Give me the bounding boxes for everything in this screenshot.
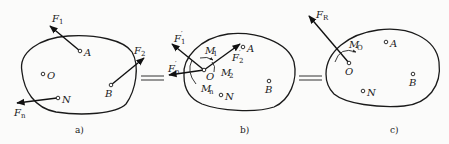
point-n-label: N [61,94,72,105]
point-o [41,72,45,76]
point-b [109,83,113,87]
svg-text:′: ′ [175,60,177,68]
point-n [361,89,365,93]
caption-b: b) [240,125,249,135]
force-resultant-arrow [309,16,349,63]
svg-text:′: ′ [239,49,241,57]
point-a [241,45,245,49]
point-a [78,49,82,53]
point-b-label: B [408,77,416,88]
svg-text:2: 2 [229,72,233,80]
point-n-label: N [224,91,235,102]
moment-m1-arc [200,57,213,60]
caption-a: a) [75,125,84,135]
point-b-label: B [104,88,112,99]
panel-c: F R M O O A B N c) [309,9,439,135]
force-f2-arrow [111,58,144,85]
point-o-label: O [345,66,353,77]
svg-text:n: n [21,112,26,120]
point-o [347,61,351,65]
force-f1-prime-arrow [172,44,204,70]
svg-text:2: 2 [141,50,145,58]
svg-text:1: 1 [59,18,63,26]
svg-text:1: 1 [213,50,217,58]
point-b [411,72,415,76]
panel-b: F 1 ′ F 2 ′ F n ′ M 1 M 2 M n O A B N b) [167,30,295,135]
point-o-label: O [47,70,55,81]
rigid-body-outline [22,36,137,114]
point-n [219,93,223,97]
point-a [384,40,388,44]
panel-a: A F 1 O B F 2 N F n a) [13,13,145,135]
svg-text:n: n [209,88,214,96]
rigid-body-outline [326,29,439,106]
point-a-label: A [246,43,254,54]
point-a-label: A [389,38,397,49]
svg-text:1: 1 [181,38,185,46]
equals-sign-bc [299,76,322,80]
equals-sign-ab [141,76,164,80]
force-fn-arrow [17,98,57,103]
svg-text:′: ′ [181,30,183,38]
caption-c: c) [390,125,399,135]
svg-text:O: O [357,44,363,52]
point-o-label: O [206,71,214,82]
svg-text:n: n [175,68,180,76]
point-a-label: A [83,47,91,58]
svg-text:2: 2 [239,57,243,65]
svg-text:R: R [323,14,329,22]
point-n-label: N [366,87,377,98]
moment-mo-arc [335,50,356,62]
point-n [56,96,60,100]
point-b-label: B [264,84,272,95]
force-system-diagram: A F 1 O B F 2 N F n a) F 1 ′ F 2 ′ [0,0,449,144]
point-b [267,79,271,83]
